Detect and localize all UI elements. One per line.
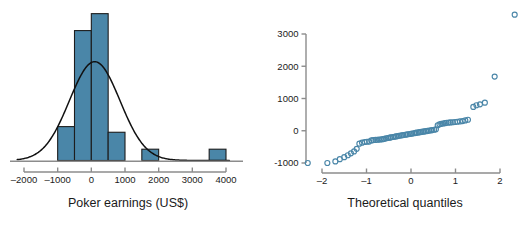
histogram-x-tick-label: 3000 bbox=[182, 174, 203, 185]
histogram-x-axis bbox=[24, 168, 226, 173]
qq-plot-panel: -10000100020003000 –2–1012 Theoretical q… bbox=[263, 0, 526, 231]
histogram-bar bbox=[91, 14, 108, 161]
qq-x-tick-label: 1 bbox=[453, 175, 458, 186]
qq-y-tick-label: 1000 bbox=[277, 93, 298, 104]
qq-point bbox=[482, 100, 487, 105]
histogram-bar bbox=[75, 31, 92, 161]
histogram-x-tick-label: 4000 bbox=[215, 174, 236, 185]
histogram-x-tick-label: –2000 bbox=[11, 174, 37, 185]
histogram-x-tick-labels: –2000–100001000200030004000 bbox=[11, 174, 237, 185]
qq-x-tick-label: 2 bbox=[497, 175, 502, 186]
qq-x-axis-title: Theoretical quantiles bbox=[347, 196, 462, 210]
histogram-x-tick-label: 1000 bbox=[114, 174, 135, 185]
histogram-x-tick-label: 2000 bbox=[148, 174, 169, 185]
qq-plot-svg: -10000100020003000 –2–1012 Theoretical q… bbox=[263, 0, 526, 231]
qq-y-tick-label: 0 bbox=[293, 125, 298, 136]
qq-point bbox=[325, 161, 330, 166]
qq-x-tick-label: –1 bbox=[361, 175, 372, 186]
histogram-x-tick-label: –1000 bbox=[44, 174, 70, 185]
qq-point bbox=[512, 12, 517, 17]
qq-x-axis bbox=[322, 169, 500, 174]
histogram-bar bbox=[108, 132, 125, 160]
figure-container: –2000–100001000200030004000 Poker earnin… bbox=[0, 0, 526, 231]
qq-x-tick-label: 0 bbox=[408, 175, 413, 186]
histogram-bar bbox=[58, 127, 75, 161]
histogram-bar bbox=[209, 149, 226, 160]
qq-y-tick-label: 2000 bbox=[277, 61, 298, 72]
histogram-x-tick-label: 0 bbox=[89, 174, 94, 185]
qq-x-tick-label: –2 bbox=[317, 175, 328, 186]
qq-x-tick-labels: –2–1012 bbox=[317, 175, 503, 186]
histogram-bars bbox=[58, 14, 226, 161]
qq-y-tick-label: 3000 bbox=[277, 28, 298, 39]
qq-y-tick-labels: -10000100020003000 bbox=[274, 28, 298, 168]
histogram-svg: –2000–100001000200030004000 Poker earnin… bbox=[0, 0, 263, 231]
qq-data-points bbox=[305, 12, 517, 165]
qq-y-axis bbox=[302, 34, 307, 163]
histogram-panel: –2000–100001000200030004000 Poker earnin… bbox=[0, 0, 263, 231]
histogram-x-axis-title: Poker earnings (US$) bbox=[68, 196, 188, 210]
qq-point bbox=[492, 74, 497, 79]
qq-y-tick-label: -1000 bbox=[274, 157, 298, 168]
